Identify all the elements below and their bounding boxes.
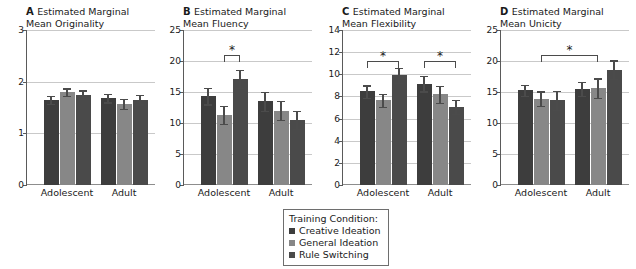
panel-letter: B: [183, 6, 194, 17]
bar: [607, 70, 622, 185]
panel-letter: A: [26, 6, 37, 17]
error-bar-cap: [104, 102, 112, 103]
error-bar-cap: [521, 85, 529, 86]
bar: [417, 84, 432, 185]
x-tick-label: Adolescent: [357, 187, 409, 198]
gridline: [184, 92, 312, 93]
error-bar: [556, 91, 557, 110]
error-bar-cap: [261, 92, 269, 93]
error-bar-cap: [204, 104, 212, 105]
plot-area: 02468101214AdolescentAdult**: [342, 30, 470, 185]
gridline: [184, 30, 312, 31]
error-bar-cap: [120, 99, 128, 100]
error-bar-cap: [395, 83, 403, 84]
error-bar: [280, 101, 281, 120]
error-bar-cap: [594, 78, 602, 79]
error-bar-cap: [436, 86, 444, 87]
significance-asterisk: *: [567, 46, 573, 54]
bar: [101, 98, 116, 185]
legend-item-label: General Ideation: [299, 237, 378, 249]
error-bar: [239, 70, 240, 89]
error-bar-cap: [594, 98, 602, 99]
error-bar: [366, 85, 367, 97]
gridline: [184, 61, 312, 62]
bar: [201, 96, 216, 185]
error-bar: [613, 60, 614, 79]
error-bar-cap: [553, 91, 561, 92]
bar: [518, 90, 533, 185]
bar: [60, 92, 75, 185]
y-tick-label: 20: [487, 56, 498, 66]
y-tick-label: 10: [329, 69, 340, 79]
bar: [44, 100, 59, 185]
error-bar-cap: [379, 107, 387, 108]
bar: [258, 101, 273, 185]
error-bar: [597, 78, 598, 98]
error-bar-cap: [63, 96, 71, 97]
error-bar-cap: [452, 100, 460, 101]
y-tick-label: 0: [175, 180, 181, 190]
y-tick-label: 3: [18, 25, 24, 35]
error-bar-cap: [363, 98, 371, 99]
error-bar-cap: [136, 95, 144, 96]
y-tick-label: 25: [170, 25, 181, 35]
bar: [217, 115, 232, 185]
bar: [433, 94, 448, 185]
x-tick-label: Adolescent: [198, 187, 250, 198]
bar: [76, 95, 91, 185]
significance-asterisk: *: [229, 46, 235, 54]
error-bar: [223, 106, 224, 125]
significance-asterisk: *: [380, 52, 386, 60]
bar: [534, 99, 549, 185]
error-bar: [296, 111, 297, 130]
x-tick-label: Adult: [586, 187, 611, 198]
panel-title-text: Estimated Marginal Mean Unicity: [500, 6, 604, 29]
plot-area: 0510152025AdolescentAdult*: [500, 30, 628, 185]
error-bar: [264, 92, 265, 111]
legend-item-label: Creative Ideation: [299, 225, 381, 237]
gridline: [343, 30, 471, 31]
y-tick-label: 5: [175, 149, 181, 159]
bar: [591, 88, 606, 185]
error-bar-cap: [395, 68, 403, 69]
legend-swatch-icon: [289, 228, 295, 234]
legend-item: Rule Switching: [289, 249, 381, 261]
error-bar-cap: [537, 91, 545, 92]
bar: [360, 91, 375, 185]
y-tick-label: 5: [492, 149, 498, 159]
gridline: [27, 30, 155, 31]
error-bar: [398, 68, 399, 82]
y-tick-label: 4: [334, 136, 340, 146]
legend-swatch-icon: [289, 240, 295, 246]
panel-title-text: Estimated Marginal Mean Fluency: [183, 6, 286, 29]
panel-title: A Estimated Marginal Mean Originality: [26, 6, 158, 29]
y-tick-label: 0: [334, 180, 340, 190]
legend-swatch-icon: [289, 252, 295, 258]
error-bar-cap: [610, 79, 618, 80]
y-tick-label: 20: [170, 56, 181, 66]
y-tick-label: 2: [18, 77, 24, 87]
error-bar-cap: [379, 94, 387, 95]
y-tick-label: 15: [170, 87, 181, 97]
error-bar-cap: [363, 85, 371, 86]
error-bar-cap: [293, 129, 301, 130]
x-tick-label: Adult: [269, 187, 294, 198]
significance-asterisk: *: [437, 52, 443, 60]
y-tick-label: 2: [334, 158, 340, 168]
error-bar: [423, 76, 424, 92]
error-bar-cap: [420, 76, 428, 77]
gridline: [27, 82, 155, 83]
error-bar-cap: [553, 110, 561, 111]
panel-letter: C: [342, 6, 353, 17]
error-bar: [207, 88, 208, 104]
y-tick-label: 10: [170, 118, 181, 128]
x-tick-label: Adult: [428, 187, 453, 198]
y-tick-label: 1: [18, 128, 24, 138]
bar: [233, 79, 248, 185]
error-bar-cap: [79, 99, 87, 100]
error-bar-cap: [436, 103, 444, 104]
error-bar-cap: [420, 91, 428, 92]
y-tick-label: 14: [329, 25, 340, 35]
error-bar: [107, 94, 108, 102]
x-tick-label: Adolescent: [515, 187, 567, 198]
